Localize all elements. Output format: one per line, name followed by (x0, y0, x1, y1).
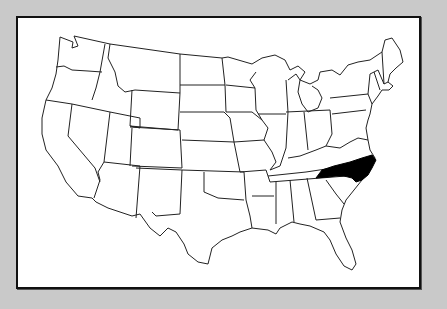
us-map (0, 0, 447, 309)
